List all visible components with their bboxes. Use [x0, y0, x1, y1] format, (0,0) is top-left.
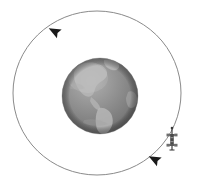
orbit-diagram-canvas [0, 0, 199, 188]
orbit-diagram: Satellite orbiting Earth [0, 0, 199, 188]
satellite [167, 127, 178, 150]
orbit-direction-arrow-bottom-right [146, 152, 161, 166]
earth-globe [62, 58, 138, 134]
